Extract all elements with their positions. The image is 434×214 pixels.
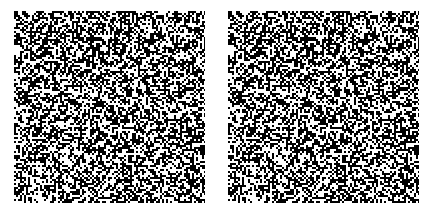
stereogram-figure [0, 0, 434, 214]
right-noise-panel [228, 11, 419, 203]
left-random-dot-image [14, 11, 205, 203]
left-noise-panel [14, 11, 205, 203]
right-random-dot-image [228, 11, 419, 203]
